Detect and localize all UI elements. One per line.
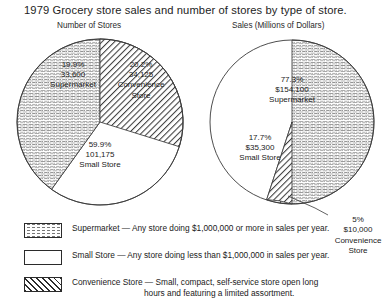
legend-swatch-small-store-icon bbox=[24, 250, 62, 265]
left-small-pct: 59.9% bbox=[56, 140, 144, 150]
legend-text-convenience-line1: Convenience Store — Small, compact, self… bbox=[72, 277, 318, 288]
legend-text-supermarket: Supermarket — Any store doing $1,000,000… bbox=[72, 223, 329, 234]
legend-text-small-store: Small Store — Any store doing less than … bbox=[72, 250, 329, 261]
legend: Supermarket — Any store doing $1,000,000… bbox=[0, 222, 390, 301]
right-small-pct: 17.7% bbox=[218, 133, 302, 143]
right-label-supermarket: 77.3% $154,100 Supermarket bbox=[245, 75, 339, 106]
legend-row-small-store: Small Store — Any store doing less than … bbox=[0, 249, 390, 276]
left-convenience-pct: 20.2% bbox=[104, 60, 178, 70]
figure-root: 1979 Grocery store sales and number of s… bbox=[0, 0, 390, 301]
right-supermarket-value: $154,100 bbox=[245, 85, 339, 95]
legend-text-convenience-line2: hours and featuring a limited assortment… bbox=[72, 288, 318, 299]
right-pie bbox=[210, 40, 374, 215]
legend-swatch-convenience-store-icon bbox=[24, 277, 62, 292]
left-convenience-value: 34,125 bbox=[104, 70, 178, 80]
right-label-small-store: 17.7% $35,300 Small Store bbox=[218, 133, 302, 164]
left-label-convenience-store: 20.2% 34,125 Convenience Store bbox=[104, 60, 178, 101]
right-small-value: $35,300 bbox=[218, 143, 302, 153]
legend-row-convenience-store: Convenience Store — Small, compact, self… bbox=[0, 276, 390, 301]
left-convenience-name: Convenience bbox=[104, 80, 178, 90]
right-supermarket-pct: 77.3% bbox=[245, 75, 339, 85]
left-label-small-store: 59.9% 101,175 Small Store bbox=[56, 140, 144, 171]
right-small-name: Small Store bbox=[218, 153, 302, 163]
right-slice-supermarket[interactable] bbox=[280, 40, 374, 204]
left-convenience-name2: Store bbox=[104, 91, 178, 101]
right-supermarket-name: Supermarket bbox=[245, 95, 339, 105]
legend-swatch-supermarket-icon bbox=[24, 223, 62, 238]
left-small-value: 101,175 bbox=[56, 150, 144, 160]
legend-text-convenience-store: Convenience Store — Small, compact, self… bbox=[72, 277, 318, 300]
legend-row-supermarket: Supermarket — Any store doing $1,000,000… bbox=[0, 222, 390, 249]
left-small-name: Small Store bbox=[56, 160, 144, 170]
